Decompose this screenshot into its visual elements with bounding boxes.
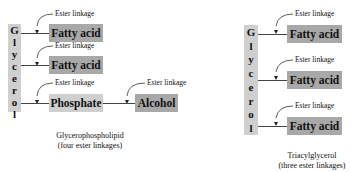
- fatty-acid-box: Fatty acid: [49, 56, 103, 74]
- glycerol-letter: l: [249, 40, 252, 52]
- glycerol-letter: e: [12, 72, 17, 84]
- ester-linkage-label: Ester linkage: [55, 41, 94, 50]
- fatty-acid-box: Fatty acid: [287, 71, 342, 89]
- bond-line: [103, 103, 135, 104]
- glycerol-letter: r: [12, 84, 17, 96]
- glycerol-letter: o: [12, 96, 18, 108]
- caption-title: Triacylglycerol: [262, 151, 351, 161]
- ester-linkage-label: Ester linkage: [55, 9, 94, 18]
- bond-line: [21, 103, 49, 104]
- glycerol-letter: G: [247, 26, 256, 38]
- caption-title: Glycerophospholipid: [40, 131, 140, 141]
- ester-linkage-label: Ester linkage: [295, 55, 334, 64]
- fatty-acid-box: Fatty acid: [287, 25, 342, 43]
- glycerol-letter: G: [10, 24, 19, 36]
- glycerol-letter: c: [12, 60, 17, 72]
- bond-line: [258, 34, 287, 35]
- glycerol-letter: o: [248, 108, 254, 120]
- bond-line: [21, 65, 49, 66]
- phosphate-box: Phosphate: [49, 94, 103, 112]
- glycerol-letter: y: [248, 53, 254, 65]
- caption-glycerophospholipid: Glycerophospholipid (four ester linkages…: [40, 131, 140, 151]
- ester-linkage-label: Ester linkage: [55, 78, 94, 87]
- fatty-acid-box: Fatty acid: [49, 24, 103, 42]
- alcohol-box: Alcohol: [135, 94, 178, 112]
- caption-subtitle: (three ester linkages): [262, 161, 351, 171]
- bond-line: [258, 126, 287, 127]
- caption-triacylglycerol: Triacylglycerol (three ester linkages): [262, 151, 351, 171]
- ester-linkage-label: Ester linkage: [295, 101, 334, 110]
- glycerol-bar-left: G l y c e r o l: [8, 24, 21, 112]
- caption-subtitle: (four ester linkages): [40, 141, 140, 151]
- fatty-acid-box: Fatty acid: [287, 117, 342, 135]
- glycerol-letter: l: [13, 108, 16, 120]
- glycerol-letter: y: [12, 48, 18, 60]
- glycerol-letter: l: [13, 36, 16, 48]
- bond-line: [21, 33, 49, 34]
- glycerol-letter: r: [249, 95, 254, 107]
- ester-linkage-label: Ester linkage: [147, 78, 186, 87]
- glycerol-letter: l: [249, 122, 252, 134]
- glycerol-letter: e: [249, 81, 254, 93]
- bond-line: [258, 80, 287, 81]
- ester-linkage-label: Ester linkage: [295, 9, 334, 18]
- glycerol-bar-right: G l y c e r o l: [244, 25, 258, 135]
- glycerol-letter: c: [249, 67, 254, 79]
